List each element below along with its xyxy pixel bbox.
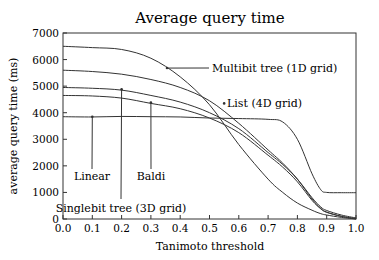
x-tick-label: 0.2 bbox=[113, 222, 130, 234]
y-tick-label: 7000 bbox=[32, 27, 59, 39]
x-tick-label: 0.7 bbox=[260, 222, 277, 234]
annotation-label: Multibit tree (1D grid) bbox=[212, 62, 337, 75]
annotation-label: Baldi bbox=[137, 170, 166, 183]
x-tick-label: 1.0 bbox=[348, 222, 365, 234]
y-tick-label: 4000 bbox=[32, 107, 59, 119]
y-axis: 01000200030004000500060007000 bbox=[32, 27, 67, 225]
annotation-label: Singlebit tree (3D grid) bbox=[56, 202, 187, 215]
x-tick-label: 0.0 bbox=[55, 222, 72, 234]
x-tick-label: 0.3 bbox=[143, 222, 160, 234]
annotation-label: Linear bbox=[74, 170, 111, 183]
plot-frame bbox=[63, 33, 356, 219]
line-chart: Average query time 010002000300040005000… bbox=[0, 0, 379, 260]
y-tick-label: 2000 bbox=[32, 160, 59, 172]
y-tick-label: 1000 bbox=[32, 186, 59, 198]
y-tick-label: 6000 bbox=[32, 54, 59, 66]
x-tick-label: 0.5 bbox=[201, 222, 218, 234]
y-tick-label: 5000 bbox=[32, 80, 59, 92]
y-axis-label: average query time (ms) bbox=[7, 58, 20, 195]
series-line bbox=[63, 87, 356, 217]
chart-title: Average query time bbox=[134, 9, 285, 27]
x-tick-label: 0.1 bbox=[84, 222, 101, 234]
series-line bbox=[63, 70, 356, 219]
annotations: Multibit tree (1D grid)List (4D grid)Lin… bbox=[56, 62, 338, 215]
x-tick-label: 0.6 bbox=[230, 222, 247, 234]
x-axis-label: Tanimoto threshold bbox=[156, 240, 264, 253]
y-tick-label: 3000 bbox=[32, 133, 59, 145]
x-tick-label: 0.4 bbox=[172, 222, 189, 234]
x-axis: 0.00.10.20.30.40.50.60.70.80.91.0 bbox=[55, 215, 365, 234]
annotation-label: List (4D grid) bbox=[227, 97, 302, 110]
series-line bbox=[63, 95, 356, 218]
x-tick-label: 0.8 bbox=[289, 222, 306, 234]
x-tick-label: 0.9 bbox=[318, 222, 335, 234]
